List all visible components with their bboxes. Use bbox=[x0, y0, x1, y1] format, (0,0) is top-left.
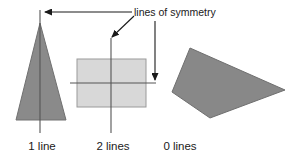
triangle-shape bbox=[16, 23, 66, 120]
arrow-to-rectangle-vertical-line bbox=[112, 16, 134, 37]
shape-triangle-group bbox=[16, 10, 66, 133]
figure-canvas: lines of symmetry 1 line 2 lines 0 lines bbox=[0, 0, 290, 161]
caption-quadrilateral: 0 lines bbox=[163, 140, 196, 152]
caption-rectangle: 2 lines bbox=[96, 140, 129, 152]
shape-quadrilateral-group bbox=[172, 48, 285, 118]
quadrilateral-shape bbox=[172, 48, 285, 118]
caption-triangle: 1 line bbox=[28, 140, 56, 152]
lines-of-symmetry-figure: lines of symmetry 1 line 2 lines 0 lines bbox=[0, 0, 290, 161]
shape-rectangle-group bbox=[70, 38, 156, 133]
lines-of-symmetry-annotation: lines of symmetry bbox=[134, 6, 216, 18]
